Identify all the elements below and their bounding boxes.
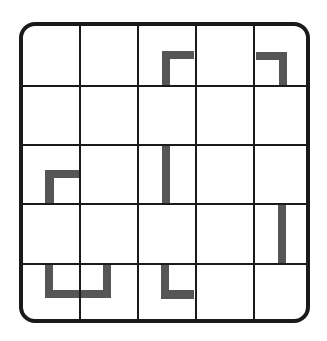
puzzle-board [19,22,310,323]
piece-segment [162,51,170,85]
cell-r2c3[interactable] [139,87,195,144]
cell-r1c2[interactable] [81,26,137,85]
piece-segment [161,290,194,299]
grid-line-horizontal [23,203,306,205]
cell-r5c5[interactable] [255,265,310,323]
grid-line-vertical [195,26,197,319]
grid-line-horizontal [23,144,306,146]
cell-r3c4[interactable] [197,146,253,203]
cell-r4c3[interactable] [139,205,195,263]
cell-r3c2[interactable] [81,146,137,203]
cell-r1c1[interactable] [23,26,79,85]
piece-segment [278,205,286,263]
grid-line-vertical [79,26,81,319]
grid-line-vertical [253,26,255,319]
cell-r2c4[interactable] [197,87,253,144]
cell-r2c5[interactable] [255,87,310,144]
cell-r1c4[interactable] [197,26,253,85]
grid-line-horizontal [23,85,306,87]
cell-r4c2[interactable] [81,205,137,263]
piece-segment [279,52,287,85]
cell-r4c4[interactable] [197,205,253,263]
cell-r5c4[interactable] [197,265,253,323]
piece-segment [45,170,54,203]
piece-segment [45,290,111,298]
cell-r3c5[interactable] [255,146,310,203]
grid-line-vertical [137,26,139,319]
cell-r2c1[interactable] [23,87,79,144]
cell-r2c2[interactable] [81,87,137,144]
cell-r4c1[interactable] [23,205,79,263]
grid-line-horizontal [23,263,306,265]
piece-segment [162,146,170,203]
